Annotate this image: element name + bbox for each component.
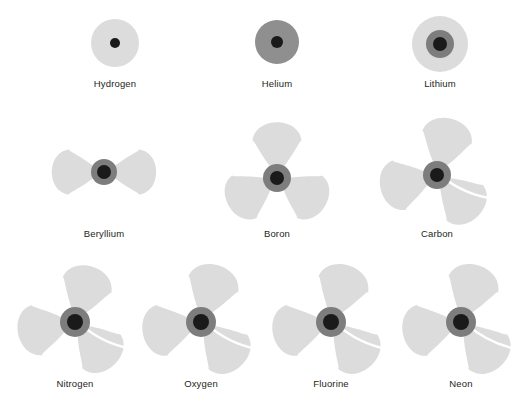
inner-shell [316,307,346,337]
outer-shell [91,19,139,67]
lobe-shape [268,297,333,360]
electron-cloud-lithium [360,0,520,124]
element-label-carbon: Carbon [377,228,497,239]
orbital-lobe [108,149,156,195]
nucleus [67,314,83,330]
lobe-shape [437,258,504,327]
lobe-divider-line [466,310,517,364]
lobe-shape [52,149,100,195]
orbital-lobe [52,259,118,326]
lobe-divider-line [206,310,257,364]
orbital-lobe [52,149,100,195]
inner-shell [60,307,90,337]
lobe-shape [59,308,133,383]
orbital-lobe [59,308,133,383]
nucleus [271,36,283,48]
lobe-divider-line [442,162,493,213]
lobe-divider-line [336,310,387,364]
lobe-shape [52,259,118,326]
element-label-neon: Neon [401,378,521,389]
lobe-shape [413,112,477,178]
lobe-shape [184,307,260,383]
lobe-shape [177,258,244,327]
lobe-shape [108,149,156,195]
orbital-lobe [252,122,302,174]
orbital-lobe [444,307,520,383]
nucleus [433,37,447,51]
nucleus [270,171,284,185]
nucleus [97,165,111,179]
orbital-lobe [398,297,463,360]
orbital-lobe [268,297,333,360]
orbital-lobe [437,258,504,327]
nucleus [453,314,469,330]
element-label-oxygen: Oxygen [141,378,261,389]
element-label-fluorine: Fluorine [271,378,391,389]
orbital-lobe [374,151,440,215]
element-label-boron: Boron [217,228,337,239]
lobe-shape [398,297,463,360]
electron-cloud-hydrogen [35,0,195,123]
element-label-lithium: Lithium [380,78,500,89]
inner-shell [91,159,117,185]
electron-cloud-helium [197,0,357,122]
outer-shell [255,20,299,64]
orbital-lobe [177,258,244,327]
lobe-shape [307,258,374,327]
atomic-orbital-diagram: HydrogenHeliumLithiumBerylliumBoronCarbo… [0,0,521,404]
lobe-shape [252,122,302,174]
orbital-lobe [13,298,77,360]
orbital-lobe [307,258,374,327]
inner-shell [186,307,216,337]
lobe-shape [444,307,520,383]
inner-shell [263,164,291,192]
lobe-shape [374,151,440,215]
element-label-hydrogen: Hydrogen [55,78,175,89]
nucleus [430,168,444,182]
lobe-shape [422,160,497,235]
lobe-shape [268,159,338,228]
orbital-lobe [422,160,497,235]
lobe-divider-line [80,310,130,363]
inner-shell [446,307,476,337]
orbital-lobe [268,159,338,228]
element-label-helium: Helium [217,78,337,89]
lobe-shape [216,159,286,228]
orbital-lobe [184,307,260,383]
orbital-lobe [413,112,477,178]
element-label-beryllium: Beryllium [44,228,164,239]
orbital-lobe [138,297,203,360]
nucleus [323,314,339,330]
outer-shell [412,16,468,72]
lobe-shape [138,297,203,360]
lobe-shape [13,298,77,360]
nucleus [193,314,209,330]
inner-shell [423,161,451,189]
nucleus [110,38,120,48]
lobe-shape [314,307,390,383]
element-label-nitrogen: Nitrogen [15,378,135,389]
inner-shell [426,30,454,58]
orbital-lobe [216,159,286,228]
orbital-lobe [314,307,390,383]
